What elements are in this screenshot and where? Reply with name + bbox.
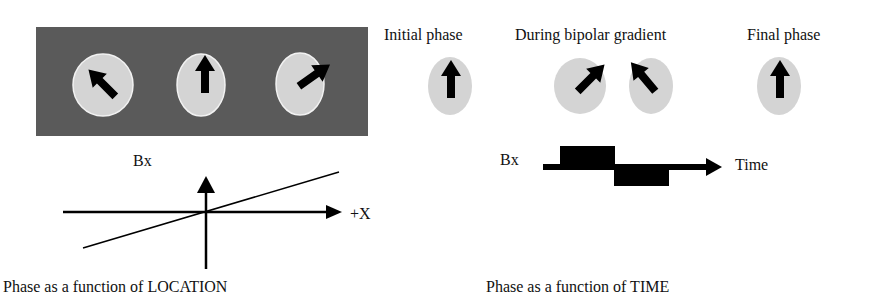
spin-final (757, 57, 801, 115)
time-caption: Phase as a function of TIME (486, 278, 669, 295)
y-axis-arrow-icon (197, 176, 215, 193)
spin-left (73, 54, 133, 116)
phase-labels: Initial phase During bipolar gradient Fi… (384, 26, 820, 44)
phase-image (36, 27, 368, 136)
spin-during-2 (623, 56, 673, 114)
phase-spins (428, 56, 801, 115)
spin-during-1 (554, 57, 612, 114)
location-caption: Phase as a function of LOCATION (3, 278, 228, 295)
during-phase-label: During bipolar gradient (515, 26, 667, 44)
x-axis-arrow-icon (326, 205, 342, 219)
location-graph: Bx +X Phase as a function of LOCATION (3, 152, 371, 295)
diagram-canvas: Bx +X Phase as a function of LOCATION In… (0, 0, 879, 304)
gradient-line (83, 172, 339, 248)
time-y-label: Bx (500, 151, 519, 168)
spin-initial (428, 57, 472, 115)
initial-phase-label: Initial phase (384, 26, 463, 44)
positive-lobe (560, 146, 615, 167)
time-x-label: Time (735, 156, 768, 173)
time-graph: Bx Time Phase as a function of TIME (486, 146, 768, 295)
final-phase-label: Final phase (747, 26, 820, 44)
negative-lobe (614, 167, 669, 186)
location-y-label: Bx (133, 152, 152, 169)
time-axis-arrow-icon (706, 158, 722, 176)
spin-center (177, 54, 225, 116)
location-x-label: +X (350, 205, 371, 222)
